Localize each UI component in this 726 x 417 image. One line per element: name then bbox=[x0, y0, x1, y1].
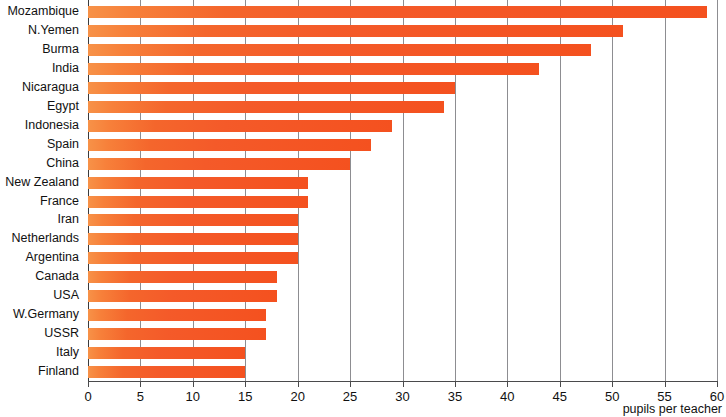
bar bbox=[88, 214, 298, 226]
x-tick-60 bbox=[717, 381, 718, 387]
x-tick-35 bbox=[455, 381, 456, 387]
bar-chart: MozambiqueN.YemenBurmaIndiaNicaraguaEgyp… bbox=[0, 0, 726, 417]
x-tick-0 bbox=[88, 381, 89, 387]
bar bbox=[88, 25, 623, 37]
bar bbox=[88, 252, 298, 264]
bar bbox=[88, 63, 539, 75]
x-tick-40 bbox=[507, 381, 508, 387]
category-label: N.Yemen bbox=[0, 23, 83, 37]
x-tick-label-50: 50 bbox=[605, 389, 619, 404]
bar bbox=[88, 44, 591, 56]
category-label: Egypt bbox=[0, 99, 83, 113]
gridline-10 bbox=[193, 0, 194, 381]
bar bbox=[88, 366, 245, 378]
gridline-55 bbox=[665, 0, 666, 381]
bar bbox=[88, 177, 308, 189]
gridline-0 bbox=[88, 0, 89, 381]
x-tick-label-30: 30 bbox=[395, 389, 409, 404]
category-label: Mozambique bbox=[0, 4, 83, 18]
category-label: China bbox=[0, 156, 83, 170]
gridline-15 bbox=[245, 0, 246, 381]
x-tick-55 bbox=[665, 381, 666, 387]
category-label: France bbox=[0, 194, 83, 208]
x-axis-title: pupils per teacher bbox=[623, 402, 722, 416]
bar bbox=[88, 120, 392, 132]
x-tick-label-15: 15 bbox=[238, 389, 252, 404]
category-label: Nicaragua bbox=[0, 80, 83, 94]
category-label: Argentina bbox=[0, 250, 83, 264]
x-tick-15 bbox=[245, 381, 246, 387]
bar bbox=[88, 233, 298, 245]
x-tick-30 bbox=[403, 381, 404, 387]
gridline-35 bbox=[455, 0, 456, 381]
category-label: Burma bbox=[0, 42, 83, 56]
x-tick-5 bbox=[140, 381, 141, 387]
bar bbox=[88, 158, 350, 170]
category-axis-labels: MozambiqueN.YemenBurmaIndiaNicaraguaEgyp… bbox=[0, 0, 83, 381]
bar bbox=[88, 196, 308, 208]
category-label: India bbox=[0, 61, 83, 75]
x-tick-25 bbox=[350, 381, 351, 387]
bar bbox=[88, 290, 277, 302]
gridline-25 bbox=[350, 0, 351, 381]
category-label: W.Germany bbox=[0, 307, 83, 321]
bar bbox=[88, 271, 277, 283]
x-tick-45 bbox=[560, 381, 561, 387]
x-tick-label-25: 25 bbox=[343, 389, 357, 404]
bar bbox=[88, 101, 444, 113]
x-tick-label-20: 20 bbox=[290, 389, 304, 404]
gridline-30 bbox=[403, 0, 404, 381]
category-label: Canada bbox=[0, 269, 83, 283]
x-tick-20 bbox=[298, 381, 299, 387]
category-label: USSR bbox=[0, 326, 83, 340]
gridline-5 bbox=[140, 0, 141, 381]
bar bbox=[88, 347, 245, 359]
category-label: New Zealand bbox=[0, 175, 83, 189]
bar bbox=[88, 328, 266, 340]
x-tick-50 bbox=[612, 381, 613, 387]
gridline-40 bbox=[507, 0, 508, 381]
x-tick-label-55: 55 bbox=[657, 389, 671, 404]
x-tick-label-35: 35 bbox=[448, 389, 462, 404]
bar bbox=[88, 309, 266, 321]
plot-area bbox=[88, 0, 717, 381]
x-tick-10 bbox=[193, 381, 194, 387]
x-tick-label-40: 40 bbox=[500, 389, 514, 404]
bar bbox=[88, 139, 371, 151]
x-tick-label-5: 5 bbox=[137, 389, 144, 404]
x-tick-label-10: 10 bbox=[186, 389, 200, 404]
category-label: Indonesia bbox=[0, 118, 83, 132]
bar bbox=[88, 82, 455, 94]
category-label: Spain bbox=[0, 137, 83, 151]
category-label: USA bbox=[0, 288, 83, 302]
category-label: Netherlands bbox=[0, 231, 83, 245]
category-label: Iran bbox=[0, 212, 83, 226]
x-tick-label-60: 60 bbox=[710, 389, 724, 404]
bar bbox=[88, 6, 707, 18]
category-label: Italy bbox=[0, 345, 83, 359]
gridline-60 bbox=[717, 0, 718, 381]
x-tick-label-0: 0 bbox=[84, 389, 91, 404]
gridline-50 bbox=[612, 0, 613, 381]
x-tick-label-45: 45 bbox=[553, 389, 567, 404]
gridline-20 bbox=[298, 0, 299, 381]
category-label: Finland bbox=[0, 364, 83, 378]
gridline-45 bbox=[560, 0, 561, 381]
